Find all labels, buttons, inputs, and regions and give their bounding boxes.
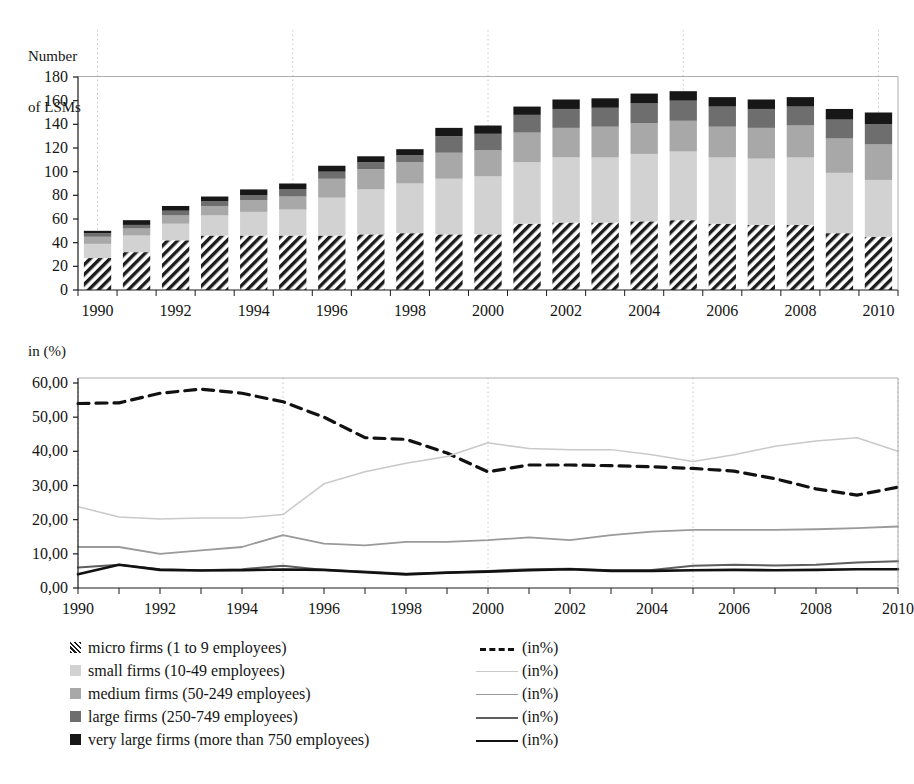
bar-segment [748,159,775,225]
line-chart-plot [0,340,906,630]
line-x-tick-2008: 2008 [800,600,832,618]
bar-segment [474,150,501,176]
legend-swatch-icon [70,734,81,745]
bar-segment [162,215,189,223]
bar-segment [84,244,111,258]
legend-item-line-3[interactable]: (in%) [476,705,558,728]
legend-swatch-icon [70,642,81,653]
bar-segment [826,173,853,233]
line-x-tick-2010: 2010 [882,600,914,618]
legend-column-lines: (in%)(in%)(in%)(in%)(in%) [476,636,558,751]
bar-segment [552,128,579,158]
legend-item-line-1[interactable]: (in%) [476,659,558,682]
line-x-tick-1990: 1990 [62,600,94,618]
bar-segment [826,109,853,120]
legend-label: (in%) [522,640,558,656]
bar-segment [474,176,501,234]
bar-segment [552,223,579,290]
line-y-tick-10_00: 10,00 [0,545,68,563]
bar-segment [357,169,384,189]
bar-y-tick-80: 80 [0,186,68,204]
legend-label: (in%) [522,709,558,725]
bar-segment [631,94,658,103]
line-x-tick-1998: 1998 [390,600,422,618]
line-x-tick-2002: 2002 [554,600,586,618]
bar-segment [670,152,697,221]
bar-segment [201,197,228,202]
bar-segment [591,127,618,158]
bar-segment [865,144,892,180]
legend-item-line-4[interactable]: (in%) [476,728,558,751]
legend-label: (in%) [522,732,558,748]
line-y-tick-40_00: 40,00 [0,442,68,460]
line-x-tick-1994: 1994 [226,600,258,618]
bar-segment [591,108,618,127]
legend-item-bar-4[interactable]: very large firms (more than 750 employee… [70,728,369,751]
bar-x-tick-1996: 1996 [316,302,348,320]
bar-segment [709,107,736,127]
line-y-tick-0_00: 0,00 [0,579,68,597]
bar-segment [748,225,775,290]
legend-label: (in%) [522,686,558,702]
bar-segment [240,195,267,200]
bar-segment [591,157,618,222]
bar-x-tick-2004: 2004 [628,302,660,320]
bar-segment [240,236,267,290]
bar-x-tick-1990: 1990 [82,302,114,320]
legend-item-bar-0[interactable]: micro firms (1 to 9 employees) [70,636,369,659]
bar-segment [123,220,150,225]
bar-segment [865,237,892,290]
legend-label: large firms (250-749 employees) [88,709,298,725]
bar-segment [670,101,697,121]
bar-segment [826,233,853,290]
legend-label: medium firms (50-249 employees) [88,686,311,702]
bar-segment [318,179,345,198]
legend-item-bar-2[interactable]: medium firms (50-249 employees) [70,682,369,705]
bar-x-tick-1992: 1992 [160,302,192,320]
bar-segment [513,133,540,163]
bar-segment [162,224,189,241]
bar-segment [279,210,306,236]
bar-segment [318,166,345,172]
bar-segment [787,107,814,126]
bar-segment [123,252,150,290]
bar-x-tick-2006: 2006 [706,302,738,320]
bar-segment [787,157,814,224]
legend-item-line-0[interactable]: (in%) [476,636,558,659]
bar-x-tick-2010: 2010 [862,302,894,320]
bar-segment [591,98,618,107]
legend-line-icon [476,641,518,654]
legend-item-bar-1[interactable]: small firms (10-49 employees) [70,659,369,682]
bar-segment [279,197,306,210]
bar-y-tick-0: 0 [0,281,68,299]
bar-segment [748,109,775,128]
bar-y-tick-60: 60 [0,210,68,228]
bar-x-tick-2000: 2000 [472,302,504,320]
bar-segment [865,180,892,237]
bar-segment [396,233,423,290]
bar-segment [435,179,462,235]
bar-segment [357,189,384,234]
line-x-tick-1992: 1992 [144,600,176,618]
line-y-tick-30_00: 30,00 [0,477,68,495]
bar-segment [474,126,501,134]
bar-x-tick-1998: 1998 [394,302,426,320]
bar-segment [552,109,579,128]
bar-y-tick-160: 160 [0,92,68,110]
bar-segment [631,221,658,290]
bar-segment [552,99,579,108]
legend-item-bar-3[interactable]: large firms (250-749 employees) [70,705,369,728]
bar-segment [123,225,150,229]
bar-segment [435,136,462,153]
bar-segment [318,236,345,290]
legend-item-line-2[interactable]: (in%) [476,682,558,705]
bar-y-tick-140: 140 [0,115,68,133]
bar-segment [201,201,228,206]
bar-segment [474,134,501,151]
bar-segment [396,184,423,234]
bar-segment [826,139,853,173]
bar-segment [435,234,462,290]
bar-segment [162,206,189,211]
legend-line-icon [476,733,518,746]
